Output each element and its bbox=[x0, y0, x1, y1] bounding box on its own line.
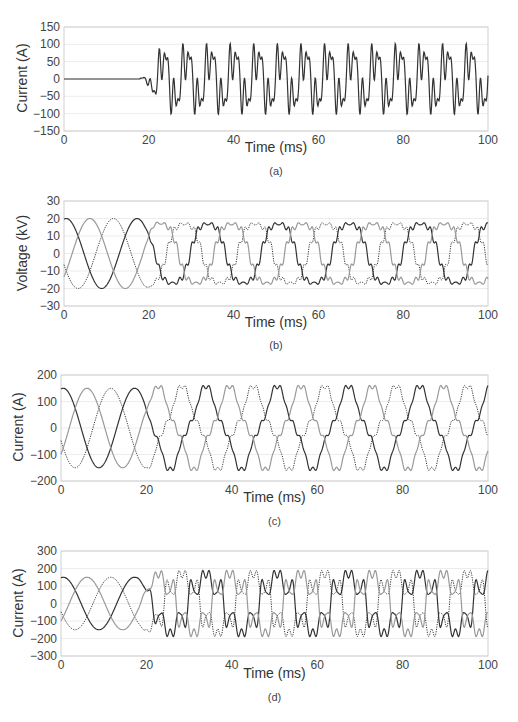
x-tick-label: 80 bbox=[388, 133, 418, 147]
x-axis-label: Time (ms) bbox=[235, 489, 315, 505]
x-tick-label: 20 bbox=[131, 658, 161, 672]
figure-caption: (a) bbox=[256, 165, 296, 177]
plot-area-c bbox=[61, 375, 488, 481]
plot-area-b bbox=[64, 201, 488, 306]
y-axis-label: Current (A) bbox=[10, 377, 26, 477]
x-axis-label: Time (ms) bbox=[235, 665, 315, 681]
x-axis-label: Time (ms) bbox=[236, 139, 316, 155]
y-axis-label: Current (A) bbox=[14, 28, 30, 128]
x-tick-label: 0 bbox=[49, 133, 79, 147]
x-tick-label: 0 bbox=[49, 308, 79, 322]
y-axis-label: Current (A) bbox=[10, 553, 26, 653]
figure-caption: (d) bbox=[255, 691, 295, 703]
x-tick-label: 100 bbox=[473, 483, 503, 497]
x-tick-label: 80 bbox=[388, 658, 418, 672]
plot-area-a bbox=[64, 27, 488, 131]
x-tick-label: 20 bbox=[134, 133, 164, 147]
x-tick-label: 20 bbox=[131, 483, 161, 497]
x-tick-label: 100 bbox=[473, 308, 503, 322]
x-tick-label: 0 bbox=[46, 483, 76, 497]
x-axis-label: Time (ms) bbox=[236, 314, 316, 330]
plot-area-d bbox=[61, 551, 488, 656]
x-tick-label: 80 bbox=[388, 483, 418, 497]
x-tick-label: 100 bbox=[473, 658, 503, 672]
x-tick-label: 0 bbox=[46, 658, 76, 672]
x-tick-label: 100 bbox=[473, 133, 503, 147]
figure-caption: (c) bbox=[255, 515, 295, 527]
x-tick-label: 80 bbox=[388, 308, 418, 322]
x-tick-label: 20 bbox=[134, 308, 164, 322]
y-axis-label: Voltage (kV) bbox=[14, 203, 30, 303]
figure-caption: (b) bbox=[256, 339, 296, 351]
